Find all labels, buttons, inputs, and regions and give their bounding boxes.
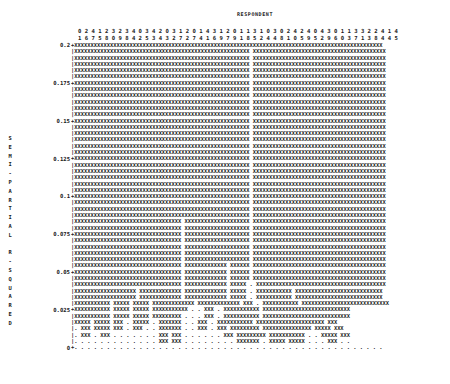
y-tick-label: 0.05 xyxy=(57,269,70,275)
y-tick-label: 0.075 xyxy=(53,231,70,237)
y-tick-label: 0.175 xyxy=(53,80,70,86)
y-tick-label: 0.025 xyxy=(53,307,70,313)
dendrogram-plot: +XXXXXXXXXXXXXXXXXXXXXXXXXXXXXXXXXXXXXXX… xyxy=(71,42,450,351)
respondent-ids-row-2: 1 6 7 5 8 0 9 8 4 2 5 3 4 3 2 7 2 7 4 1 … xyxy=(78,35,398,41)
y-tick-label: 0.1 xyxy=(60,193,70,199)
chart-title: RESPONDENT xyxy=(0,11,450,17)
y-tick-label: 0 xyxy=(67,345,70,351)
y-tick-label: 0.15 xyxy=(57,118,70,124)
y-tick-label: 0.2 xyxy=(60,42,70,48)
respondent-ids-row-1: 0 2 4 1 2 3 2 3 4 0 3 4 2 0 3 1 2 0 1 4 … xyxy=(78,28,398,34)
y-tick-label: 0.125 xyxy=(53,156,70,162)
y-axis-title: S E M I - P A R T I A L R - S Q U A R E … xyxy=(6,134,14,328)
dendrogram-row: +. . . . . . . . . . . . . . . . . . . .… xyxy=(71,344,450,350)
